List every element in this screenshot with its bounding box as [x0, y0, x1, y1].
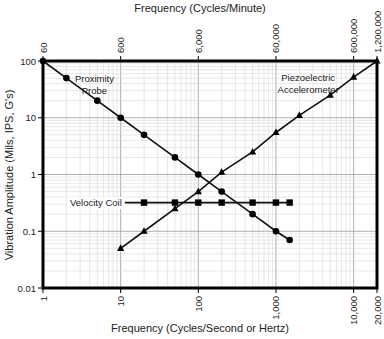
circle-marker [141, 132, 148, 139]
square-marker [273, 199, 279, 205]
circle-marker [195, 171, 202, 178]
square-marker [249, 199, 255, 205]
y-axis-title: Vibration Amplitude (Mils, IPS, G's) [3, 90, 15, 261]
x2-tick-label: 1,200,000 [372, 11, 383, 53]
series-label: Piezoelectric [281, 72, 335, 83]
top-axis-title: Frequency (Cycles/Minute) [134, 2, 265, 14]
square-marker [286, 199, 292, 205]
x-tick-label: 1 [38, 296, 49, 301]
series-label: Proximity [75, 73, 114, 84]
square-marker [141, 199, 147, 205]
series-label: Velocity Coil [70, 197, 122, 208]
axes: 1001010.10.011101001,00010,00020,0006060… [18, 11, 383, 325]
y-tick-label: 10 [25, 112, 36, 123]
triangle-marker [140, 227, 147, 234]
triangle-marker [350, 73, 357, 80]
x2-tick-label: 600,000 [348, 19, 359, 53]
x-tick-label: 10,000 [348, 296, 359, 325]
circle-marker [286, 237, 293, 244]
y-tick-label: 0.1 [23, 226, 36, 237]
circle-marker [218, 188, 225, 195]
triangle-marker [272, 128, 279, 135]
triangle-marker [117, 244, 124, 251]
frequency-response-chart: 1001010.10.011101001,00010,00020,0006060… [0, 0, 384, 339]
circle-marker [63, 75, 70, 82]
series-label: Accelerometer [278, 84, 339, 95]
y-tick-label: 1 [31, 169, 36, 180]
y-tick-label: 100 [20, 56, 36, 67]
circle-marker [273, 228, 280, 235]
square-marker [218, 199, 224, 205]
series-piezoelectric-accelerometer [117, 57, 381, 251]
circle-marker [117, 114, 124, 121]
x2-tick-label: 600 [115, 37, 126, 53]
x-tick-label: 10 [115, 296, 126, 307]
square-marker [195, 199, 201, 205]
series-label: Probe [82, 85, 107, 96]
y-tick-label: 0.01 [18, 283, 37, 294]
x-tick-label: 100 [193, 296, 204, 312]
x-tick-label: 20,000 [372, 296, 383, 325]
series-velocity-coil [117, 199, 292, 205]
x2-tick-label: 6,000 [193, 29, 204, 53]
x2-tick-label: 60 [38, 42, 49, 53]
x2-tick-label: 60,000 [270, 24, 281, 53]
circle-marker [172, 154, 179, 161]
bottom-axis-title: Frequency (Cycles/Second or Hertz) [111, 322, 289, 334]
x-tick-label: 1,000 [270, 296, 281, 320]
circle-marker [94, 97, 101, 104]
circle-marker [249, 211, 256, 218]
